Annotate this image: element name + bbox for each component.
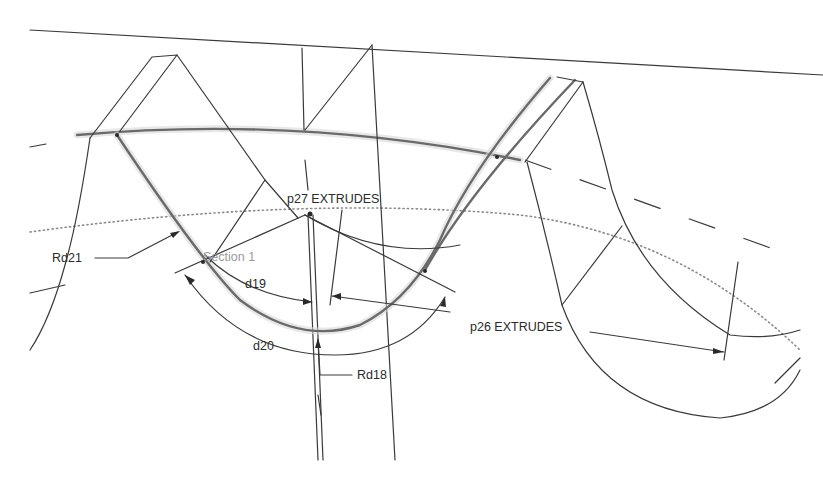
p26-leader (590, 332, 724, 352)
rd21-dimension-label[interactable]: Rd21 (52, 252, 82, 265)
axis-line-d (313, 215, 323, 460)
section-label: Section 1 (203, 251, 255, 264)
sketch-geometry (0, 0, 823, 477)
p26-extrudes-label[interactable]: p26 EXTRUDES (470, 321, 562, 334)
right-gap-flank (527, 162, 800, 418)
vertex-point-icon (423, 269, 427, 273)
root-reference-stub-left (30, 144, 46, 147)
d19-arrowhead-right-icon (332, 293, 341, 300)
rd21-leader (95, 232, 178, 258)
p26-reference-line (724, 262, 738, 360)
root-reference-curve-right (525, 160, 790, 255)
d19-dimension-leader (332, 296, 450, 312)
right-tooth-flank (583, 82, 800, 337)
p26-arrowhead-icon (713, 348, 724, 354)
left-tooth-face (177, 55, 298, 218)
addendum-line (30, 30, 823, 75)
rd18-dimension-label[interactable]: Rd18 (357, 369, 387, 382)
construction-line-4 (330, 210, 342, 305)
rd18-arrowhead-icon (315, 338, 321, 348)
rd18-leader (318, 340, 352, 375)
left-tooth-chamfer (90, 55, 177, 138)
d20-dimension-label[interactable]: d20 (253, 340, 274, 353)
tooth-space-profile-inner (425, 80, 575, 270)
right-tooth-top (557, 77, 583, 82)
rd21-arrowhead-icon (170, 231, 180, 238)
p27-point-icon (308, 212, 313, 217)
diagonal-to-top (305, 45, 372, 130)
d20-arrowhead-right-icon (440, 297, 446, 307)
left-root-stub (30, 285, 65, 293)
axis-line-f (372, 45, 395, 460)
p27-extrudes-label[interactable]: p27 EXTRUDES (287, 193, 379, 206)
d20-arrowhead-left-icon (185, 275, 195, 285)
right-tooth-diag (562, 226, 622, 305)
right-root-lines (775, 358, 800, 383)
axis-line-b (305, 160, 308, 190)
axis-line-a (302, 48, 304, 130)
axis-line-c (308, 215, 318, 460)
d19-arrowhead-icon (303, 298, 312, 305)
d19-dimension-label[interactable]: d19 (245, 278, 266, 291)
vertex-point-icon (115, 133, 119, 137)
left-tooth-flank-outer (30, 138, 90, 350)
vertex-point-icon (495, 155, 499, 159)
cad-viewport[interactable]: p27 EXTRUDES p26 EXTRUDES Rd21 Rd18 d19 … (0, 0, 823, 477)
